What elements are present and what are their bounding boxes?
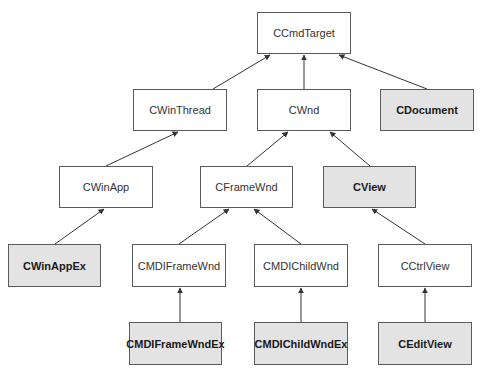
node-cframewnd: CFrameWnd bbox=[200, 166, 293, 208]
node-cwinappex: CWinAppEx bbox=[8, 244, 101, 287]
node-label: CMDIFrameWnd bbox=[138, 260, 221, 272]
node-cmdiframewnd: CMDIFrameWnd bbox=[132, 244, 226, 287]
node-label: CDocument bbox=[396, 104, 458, 116]
node-cmdichildwnd: CMDIChildWnd bbox=[254, 244, 348, 287]
node-label: CCmdTarget bbox=[273, 27, 335, 39]
node-label: CWinAppEx bbox=[23, 260, 86, 272]
node-ccmdtarget: CCmdTarget bbox=[257, 12, 351, 54]
edge-cwinthread-to-ccmdtarget bbox=[213, 55, 270, 89]
node-cdocument: CDocument bbox=[380, 89, 474, 131]
node-label: CEditView bbox=[398, 338, 452, 350]
node-label: CWnd bbox=[289, 104, 320, 116]
node-cwinthread: CWinThread bbox=[133, 89, 227, 131]
edge-cctrlview-to-cview bbox=[372, 209, 425, 244]
node-label: CMDIChildWnd bbox=[263, 260, 339, 272]
node-label: CWinApp bbox=[83, 181, 129, 193]
node-label: CView bbox=[353, 181, 386, 193]
node-label: CMDIChildWndEx bbox=[255, 338, 348, 350]
node-cview: CView bbox=[323, 166, 416, 208]
edge-cmdiframewnd-to-cframewnd bbox=[179, 209, 229, 244]
node-label: CCtrlView bbox=[401, 260, 450, 272]
edge-cmdichildwnd-to-cframewnd bbox=[254, 209, 301, 244]
edge-cwinappex-to-cwinapp bbox=[55, 209, 104, 244]
node-cmdiframewndex: CMDIFrameWndEx bbox=[129, 322, 222, 365]
node-ceditview: CEditView bbox=[378, 322, 472, 365]
class-hierarchy-diagram: CCmdTarget CWinThread CWnd CDocument CWi… bbox=[0, 0, 483, 374]
edge-cview-to-cwnd bbox=[330, 132, 370, 166]
edge-cwinapp-to-cwinthread bbox=[106, 132, 178, 166]
node-cctrlview: CCtrlView bbox=[378, 244, 472, 287]
edge-cframewnd-to-cwnd bbox=[247, 132, 288, 166]
edge-cdocument-to-ccmdtarget bbox=[339, 55, 427, 89]
node-label: CFrameWnd bbox=[215, 181, 277, 193]
node-cwnd: CWnd bbox=[257, 89, 351, 131]
node-label: CMDIFrameWndEx bbox=[126, 338, 224, 350]
node-cwinapp: CWinApp bbox=[59, 166, 153, 208]
node-cmdichildwndex: CMDIChildWndEx bbox=[254, 322, 348, 365]
node-label: CWinThread bbox=[149, 104, 211, 116]
